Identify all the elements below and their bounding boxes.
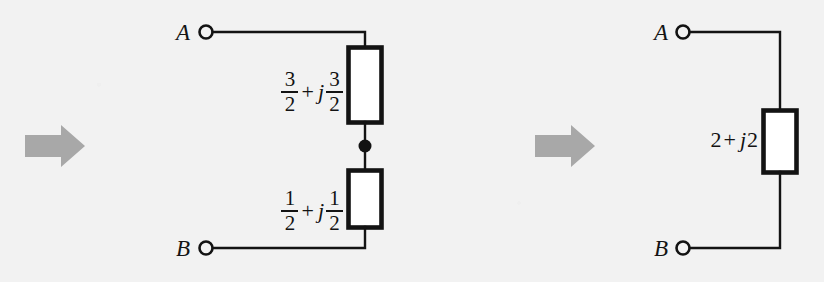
junction-dot-left bbox=[359, 140, 372, 153]
impedance-label-top-left: 3 2 + j 3 2 bbox=[222, 69, 344, 115]
fraction-numerator: 3 bbox=[326, 69, 343, 91]
resistor-box-bottom-left bbox=[349, 171, 382, 228]
fraction-real-bottom: 1 2 bbox=[281, 188, 298, 234]
fraction-numerator: 1 bbox=[326, 188, 343, 210]
imaginary-unit-equivalent: j bbox=[738, 129, 747, 151]
wire-b-right-bottom bbox=[690, 172, 780, 248]
fraction-imag-top: 3 2 bbox=[326, 69, 343, 115]
operator-plus-top: + bbox=[299, 81, 315, 103]
terminal-label-b-right: B bbox=[650, 237, 672, 260]
terminal-label-a-left: A bbox=[172, 21, 194, 44]
terminal-label-a-right: A bbox=[650, 21, 672, 44]
imaginary-unit-bottom: j bbox=[316, 200, 325, 222]
terminal-b-right-node bbox=[677, 242, 690, 255]
resistor-box-top-left bbox=[349, 48, 382, 123]
imaginary-unit-top: j bbox=[316, 81, 325, 103]
fraction-real-top: 3 2 bbox=[281, 69, 298, 115]
impedance-label-equivalent: 2 + j 2 bbox=[640, 129, 758, 151]
fraction-imag-bottom: 1 2 bbox=[326, 188, 343, 234]
fraction-denominator: 2 bbox=[282, 93, 299, 115]
impedance-label-bottom-left: 1 2 + j 1 2 bbox=[222, 188, 344, 234]
operator-plus-bottom: + bbox=[299, 200, 315, 222]
wire-a-left-top bbox=[213, 32, 365, 47]
operator-plus-equivalent: + bbox=[721, 129, 737, 151]
fraction-numerator: 1 bbox=[282, 188, 299, 210]
fraction-denominator: 2 bbox=[326, 93, 343, 115]
imag-part-equivalent: 2 bbox=[747, 129, 758, 151]
wire-a-right-top bbox=[690, 32, 780, 110]
terminal-a-left-node bbox=[200, 26, 213, 39]
fraction-denominator: 2 bbox=[326, 212, 343, 234]
fraction-numerator: 3 bbox=[282, 69, 299, 91]
transform-arrow-1 bbox=[25, 125, 85, 167]
real-part-equivalent: 2 bbox=[710, 129, 721, 151]
circuit-figure: A B 3 2 + j 3 2 1 2 + j 1 2 A B bbox=[0, 0, 824, 282]
transform-arrow-2 bbox=[535, 125, 595, 167]
terminal-a-right-node bbox=[677, 26, 690, 39]
terminal-b-left-node bbox=[200, 242, 213, 255]
terminal-label-b-left: B bbox=[172, 237, 194, 260]
resistor-box-equivalent bbox=[764, 111, 797, 173]
fraction-denominator: 2 bbox=[282, 212, 299, 234]
